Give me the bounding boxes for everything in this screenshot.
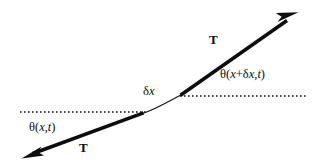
delta-x-var: x — [149, 84, 155, 98]
angle-right-close-paren: ) — [261, 67, 265, 81]
tension-label-left: T — [79, 141, 88, 154]
angle-left-close-paren: ) — [51, 120, 55, 134]
element-length-label: δx — [143, 85, 154, 98]
diagram-canvas — [0, 0, 315, 167]
angle-label-left: θ(x,t) — [29, 121, 56, 134]
tension-vector-right-arrowhead — [276, 12, 299, 22]
string-tension-diagram: T T θ(x+δx,t) θ(x,t) δx — [0, 0, 315, 167]
tension-vector-right-shaft — [181, 21, 288, 96]
angle-label-right: θ(x+δx,t) — [220, 68, 265, 81]
tension-label-right: T — [209, 33, 218, 46]
tension-vector-left-arrowhead — [22, 147, 45, 159]
angle-right-plus-sign: + — [236, 67, 243, 81]
